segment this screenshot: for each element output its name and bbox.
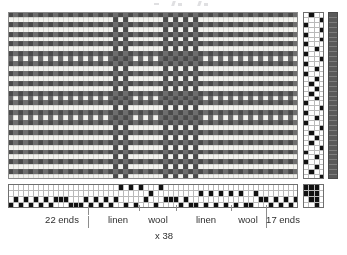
segment-label-2: linen bbox=[108, 214, 128, 225]
section-tick bbox=[139, 205, 140, 211]
treadling-grid bbox=[303, 12, 324, 179]
section-tick bbox=[176, 205, 177, 211]
segment-label-5: wool bbox=[238, 214, 258, 225]
cropped-text-remnant bbox=[148, 1, 268, 8]
weft-color-bar bbox=[328, 12, 338, 179]
section-tick bbox=[88, 216, 89, 228]
section-tick bbox=[88, 205, 89, 215]
segment-label-4: linen bbox=[196, 214, 216, 225]
section-tick bbox=[231, 205, 232, 211]
weaving-draft-figure: 22 ends linen wool linen wool 17 ends x … bbox=[0, 0, 347, 255]
drawdown-grid bbox=[8, 12, 298, 179]
segment-label-3: wool bbox=[148, 214, 168, 225]
annotation-layer: 22 ends linen wool linen wool 17 ends x … bbox=[0, 205, 347, 255]
repeat-count-label: x 38 bbox=[155, 230, 173, 241]
segment-label-6: 17 ends bbox=[266, 214, 300, 225]
segment-label-1: 22 ends bbox=[45, 214, 79, 225]
